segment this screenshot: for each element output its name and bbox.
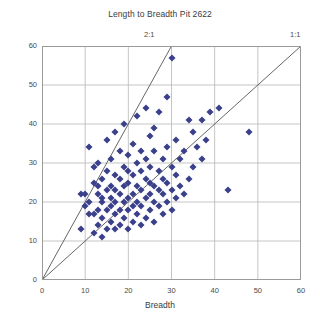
x-tick-label: 20 bbox=[115, 287, 141, 295]
reference-line-label-2to1: 2:1 bbox=[144, 31, 154, 39]
x-tick-label: 0 bbox=[29, 287, 55, 295]
x-tick-label: 30 bbox=[159, 287, 185, 295]
scatter-chart: Length to Breadth Pit 2622 2:1 1:1 Lengt… bbox=[0, 0, 320, 322]
x-tick-label: 40 bbox=[202, 287, 228, 295]
chart-title: Length to Breadth Pit 2622 bbox=[0, 9, 320, 19]
x-tick-label: 60 bbox=[288, 287, 314, 295]
x-tick-label: 50 bbox=[245, 287, 271, 295]
y-tick-label: 50 bbox=[11, 81, 37, 89]
x-tick-label: 10 bbox=[72, 287, 98, 295]
reference-line-label-1to1: 1:1 bbox=[290, 31, 300, 39]
y-tick-label: 30 bbox=[11, 159, 37, 167]
y-tick-label: 0 bbox=[11, 276, 37, 284]
y-tick-label: 20 bbox=[11, 198, 37, 206]
y-tick-label: 40 bbox=[11, 120, 37, 128]
plot-area bbox=[42, 46, 301, 280]
y-tick-label: 10 bbox=[11, 237, 37, 245]
x-axis-title: Breadth bbox=[0, 300, 320, 310]
y-tick-label: 60 bbox=[11, 42, 37, 50]
